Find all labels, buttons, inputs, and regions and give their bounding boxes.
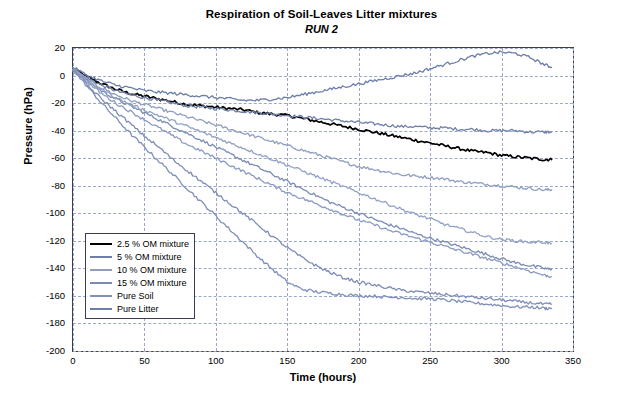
legend-item[interactable]: 10 % OM mixture <box>90 263 189 276</box>
y-tick-label: -180 <box>23 317 65 328</box>
plot-area: 2.5 % OM mixture5 % OM mixture10 % OM mi… <box>72 47 574 352</box>
x-tick-label: 200 <box>339 355 379 366</box>
y-tick-label: -100 <box>23 207 65 218</box>
legend-color-swatch <box>90 243 112 245</box>
y-tick-label: -40 <box>23 124 65 135</box>
legend-item-label: 5 % OM mixture <box>117 252 182 262</box>
legend-item[interactable]: 15 % OM mixture <box>90 276 189 289</box>
y-tick-label: 0 <box>23 69 65 80</box>
x-tick-label: 350 <box>553 355 593 366</box>
y-tick-label: -20 <box>23 97 65 108</box>
y-tick-label: 20 <box>23 42 65 53</box>
y-tick-label: -160 <box>23 289 65 300</box>
legend-color-swatch <box>90 295 112 297</box>
series-line <box>73 67 552 190</box>
chart-title: Respiration of Soil-Leaves Litter mixtur… <box>0 8 643 20</box>
x-gridline <box>573 48 574 351</box>
chart-subtitle: RUN 2 <box>0 23 643 35</box>
chart-container: Respiration of Soil-Leaves Litter mixtur… <box>0 0 643 395</box>
series-line <box>73 70 552 134</box>
legend-item-label: 2.5 % OM mixture <box>117 239 189 249</box>
legend-item-label: Pure Litter <box>117 304 159 314</box>
legend-item[interactable]: 2.5 % OM mixture <box>90 237 189 250</box>
legend-item-label: Pure Soil <box>117 291 154 301</box>
legend-item[interactable]: Pure Litter <box>90 302 189 315</box>
legend-item[interactable]: 5 % OM mixture <box>90 250 189 263</box>
series-line <box>73 51 552 101</box>
legend-item-label: 15 % OM mixture <box>117 278 187 288</box>
legend-color-swatch <box>90 282 112 284</box>
chart-legend: 2.5 % OM mixture5 % OM mixture10 % OM mi… <box>85 233 195 319</box>
y-gridline <box>73 351 573 352</box>
legend-color-swatch <box>90 308 112 310</box>
y-tick-label: -80 <box>23 179 65 190</box>
legend-color-swatch <box>90 269 112 271</box>
legend-color-swatch <box>90 256 112 258</box>
legend-item-label: 10 % OM mixture <box>117 265 187 275</box>
y-tick-label: -200 <box>23 345 65 356</box>
x-tick-label: 150 <box>267 355 307 366</box>
x-tick-label: 300 <box>482 355 522 366</box>
x-tick-label: 100 <box>196 355 236 366</box>
y-tick-label: -140 <box>23 262 65 273</box>
x-axis-title: Time (hours) <box>72 371 574 383</box>
y-tick-label: -60 <box>23 152 65 163</box>
x-tick-label: 250 <box>410 355 450 366</box>
x-tick-label: 0 <box>53 355 93 366</box>
legend-item[interactable]: Pure Soil <box>90 289 189 302</box>
y-tick-label: -120 <box>23 234 65 245</box>
x-tick-label: 50 <box>124 355 164 366</box>
